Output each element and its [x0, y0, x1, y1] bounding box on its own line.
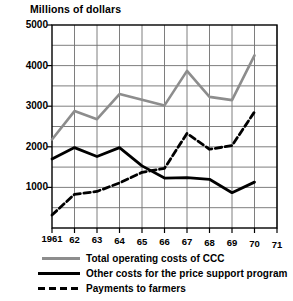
x-axis-tick-label: 70 — [249, 239, 260, 249]
dashed-black-line-icon — [38, 283, 80, 295]
x-axis-tick-label: 68 — [204, 238, 215, 248]
legend-item-label: Total operating costs of CCC — [86, 253, 224, 264]
x-axis-tick-label: 65 — [137, 237, 148, 247]
x-axis-tick-label: 71 — [272, 240, 283, 250]
solid-gray-line-icon — [38, 253, 80, 265]
legend-item-label: Payments to farmers — [86, 283, 186, 294]
legend-item-other-costs: Other costs for the price support progra… — [38, 266, 293, 281]
x-axis-tick-label: 67 — [182, 237, 193, 247]
line-chart-figure: Millions of dollars 50004000300020001000… — [0, 0, 293, 301]
x-axis-tick-label: 64 — [114, 236, 125, 246]
x-axis-tick-label: 69 — [227, 238, 238, 248]
legend-item-total-operating-costs: Total operating costs of CCC — [38, 251, 293, 266]
x-axis-tick-label: 1961 — [41, 234, 62, 244]
x-axis-tick-label: 63 — [92, 235, 103, 245]
solid-black-line-icon — [38, 268, 80, 280]
chart-legend: Total operating costs of CCC Other costs… — [38, 251, 293, 296]
legend-item-label: Other costs for the price support progra… — [86, 268, 288, 279]
legend-item-payments-to-farmers: Payments to farmers — [38, 281, 293, 296]
x-axis-tick-label: 66 — [159, 237, 170, 247]
x-axis-tick-label: 62 — [69, 235, 80, 245]
